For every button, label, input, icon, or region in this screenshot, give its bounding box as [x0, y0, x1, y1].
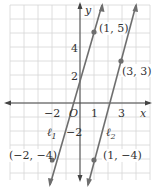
point-label: (3, 3)	[122, 65, 152, 78]
point-label: (−2, −4)	[9, 149, 57, 162]
x-tick-label: −2	[44, 107, 60, 120]
x-tick-label: 1	[91, 107, 98, 120]
y-tick-label: −2	[66, 126, 82, 139]
y-tick-label: 4	[71, 42, 78, 55]
point-1-neg4	[91, 157, 96, 162]
point-3-3	[118, 58, 123, 63]
point-label: (1, −4)	[103, 149, 142, 162]
y-axis-label: y	[84, 4, 92, 17]
arrow-up-icon	[133, 3, 139, 12]
x-axis-right-arrow-icon	[145, 101, 152, 106]
coordinate-plane: (1, 5) (3, 3) (−2, −4) (1, −4) y x O −2 …	[0, 0, 157, 190]
y-axis-down-arrow-icon	[78, 175, 83, 182]
x-axis-label: x	[140, 107, 147, 120]
origin-label: O	[69, 107, 78, 120]
point-label: (1, 5)	[99, 22, 129, 35]
y-tick-label: 2	[71, 70, 78, 83]
x-tick-label: 3	[118, 107, 125, 120]
point-1-5	[91, 29, 96, 34]
y-axis-up-arrow-icon	[78, 2, 83, 9]
arrow-down-icon	[48, 178, 54, 187]
arrow-down-icon	[87, 178, 93, 187]
line-l2-label: ℓ2	[106, 126, 116, 141]
x-axis-left-arrow-icon	[4, 101, 11, 106]
arrow-up-icon	[99, 3, 105, 12]
